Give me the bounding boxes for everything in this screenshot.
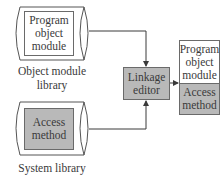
output-module-box: Program object module Access method <box>179 40 220 115</box>
output-access-method: Access method <box>180 83 219 114</box>
arrow-system-to-linkage <box>89 101 146 129</box>
program-object-module-box: Program object module <box>24 11 74 56</box>
linkage-editor-box: Linkage editor <box>123 67 170 100</box>
arrow-object-to-linkage <box>89 31 146 66</box>
object-module-library-label: Object module library <box>0 64 104 92</box>
access-method-box: Access method <box>24 108 74 150</box>
output-program-object-module: Program object module <box>180 41 219 83</box>
system-library-label: System library <box>0 161 104 175</box>
